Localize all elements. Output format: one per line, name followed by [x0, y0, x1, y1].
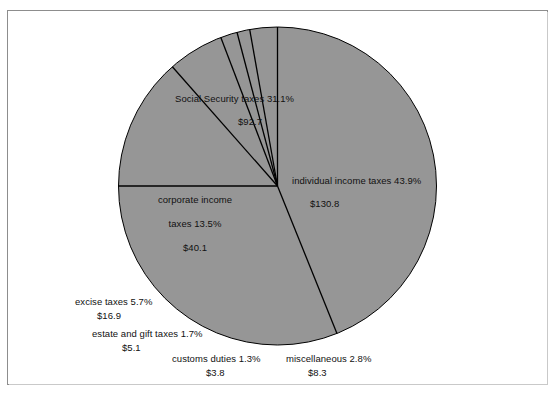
- pie-label-social-security-value: $92.7: [175, 115, 325, 128]
- pie-label-miscellaneous: miscellaneous 2.8% $8.3: [286, 352, 406, 379]
- pie-label-individual-income-text: individual income taxes 43.9%: [292, 175, 421, 186]
- pie-label-corporate-income-text2: taxes 13.5%: [140, 217, 250, 230]
- pie-label-estate-gift-taxes: estate and gift taxes 1.7% $5.1: [92, 327, 242, 354]
- pie-label-customs-duties: customs duties 1.3% $3.8: [172, 352, 302, 379]
- pie-label-individual-income: individual income taxes 43.9% $130.8: [292, 174, 442, 210]
- pie-label-miscellaneous-text: miscellaneous 2.8%: [286, 353, 371, 364]
- pie-label-excise-taxes-text: excise taxes 5.7%: [75, 296, 152, 307]
- pie-label-customs-duties-text: customs duties 1.3%: [172, 353, 261, 364]
- pie-chart: [0, 0, 558, 393]
- pie-label-corporate-income-text1: corporate income: [158, 194, 232, 205]
- pie-label-estate-gift-taxes-text: estate and gift taxes 1.7%: [92, 328, 203, 339]
- pie-label-excise-taxes: excise taxes 5.7% $16.9: [75, 295, 195, 322]
- pie-label-social-security: Social Security taxes 31.1% $92.7: [175, 92, 325, 128]
- pie-label-individual-income-value: $130.8: [310, 197, 442, 210]
- pie-label-social-security-text: Social Security taxes 31.1%: [175, 93, 294, 104]
- pie-label-corporate-income-value: $40.1: [140, 241, 250, 254]
- pie-label-excise-taxes-value: $16.9: [97, 309, 195, 322]
- pie-label-corporate-income: corporate income taxes 13.5% $40.1: [140, 193, 250, 254]
- pie-label-miscellaneous-value: $8.3: [308, 366, 406, 379]
